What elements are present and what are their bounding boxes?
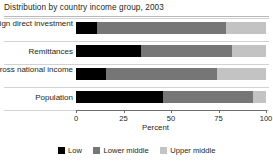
x-axis-tick [124,110,125,113]
row-divider [4,41,269,42]
x-axis-tick [76,110,77,113]
chart-row: Population [0,87,273,110]
chart-row: Foreign direct investment [0,18,273,41]
x-axis-title: Percent [0,123,273,132]
chart-row: Remittances [0,41,273,64]
legend-item[interactable]: Upper middle [160,146,216,155]
bar-segment [253,91,266,103]
bar-segment [217,68,266,80]
legend-item[interactable]: Lower middle [93,146,149,155]
x-axis: Percent 0255075100 [0,110,273,134]
title-divider [4,16,269,17]
bar-segment [226,22,266,34]
x-axis-tick [219,110,220,113]
chart-figure: Distribution by country income group, 20… [0,0,273,162]
legend-swatch-icon [58,147,65,154]
legend-label: Lower middle [104,146,149,155]
bar-segment [76,22,97,34]
bar-segment [106,68,216,80]
bar-segment [232,45,266,57]
chart-legend: LowLower middleUpper middle [0,143,273,157]
bar-segment [141,45,232,57]
x-axis-tick-label: 25 [119,114,127,123]
bar-segment [97,22,226,34]
legend-swatch-icon [93,147,100,154]
x-axis-title-text: Percent [142,123,169,132]
x-axis-tick-label: 75 [214,114,222,123]
plot-area: Foreign direct investmentRemittancesGros… [0,18,273,110]
legend-label: Upper middle [170,146,215,155]
x-axis-tick [171,110,172,113]
x-axis-tick-label: 0 [74,114,78,123]
stacked-bar [76,68,266,80]
stacked-bar [76,91,266,103]
stacked-bar [76,22,266,34]
category-label: Remittances [0,47,73,56]
category-label: Gross national income [0,65,73,74]
stacked-bar [76,45,266,57]
bar-segment [76,45,141,57]
legend-label: Low [68,146,82,155]
bar-segment [76,68,106,80]
bar-segment [163,91,252,103]
category-label: Foreign direct investment [0,19,73,28]
category-label: Population [0,93,73,102]
x-axis-tick-label: 50 [167,114,175,123]
legend-swatch-icon [160,147,167,154]
chart-title: Distribution by country income group, 20… [4,3,164,13]
row-divider [4,87,269,88]
bar-segment [76,91,163,103]
chart-row: Gross national income [0,64,273,87]
x-axis-tick-label: 100 [260,114,273,123]
legend-item[interactable]: Low [58,146,82,155]
x-axis-tick [266,110,267,113]
